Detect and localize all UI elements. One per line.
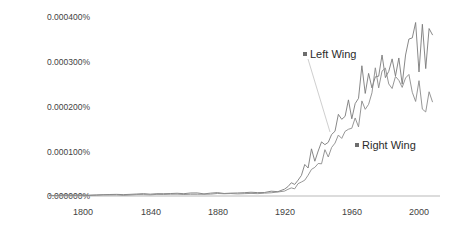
x-tick-label: 1840: [141, 207, 161, 217]
x-tick-label: 1920: [275, 207, 295, 217]
x-axis-labels: 1800 1840 1880 1920 1960 2000: [0, 0, 449, 234]
x-tick-label: 1800: [73, 207, 93, 217]
x-tick-label: 2000: [409, 207, 429, 217]
series-label-text: Left Wing: [310, 48, 356, 60]
ngram-chart: 0.000400% 0.000300% 0.000200% 0.000100% …: [0, 0, 449, 234]
legend-marker-icon: [303, 52, 307, 56]
x-tick-label: 1880: [208, 207, 228, 217]
series-label-left-wing: Left Wing: [303, 48, 356, 60]
x-tick-label: 1960: [342, 207, 362, 217]
series-label-text: Right Wing: [362, 139, 416, 151]
legend-marker-icon: [355, 143, 359, 147]
series-label-right-wing: Right Wing: [355, 139, 416, 151]
